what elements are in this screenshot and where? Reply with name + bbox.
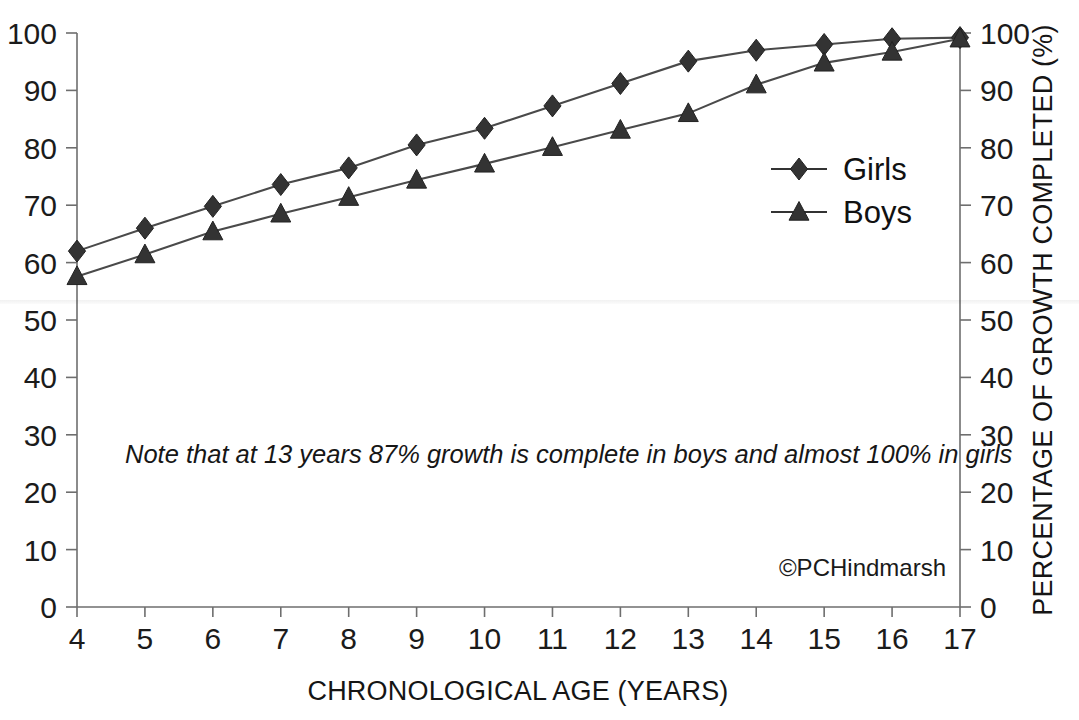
x-axis-tick-label: 14 (740, 622, 773, 655)
x-axis-tick-label: 6 (205, 622, 222, 655)
x-axis-tick-label: 16 (875, 622, 908, 655)
x-axis-tick-label: 15 (807, 622, 840, 655)
right-axis-tick-label: 60 (980, 247, 1013, 280)
right-axis-tick-label: 50 (980, 304, 1013, 337)
right-axis-tick-label: 100 (980, 17, 1030, 50)
x-axis-tick-label: 7 (272, 622, 289, 655)
right-axis-tick-label: 0 (980, 591, 997, 624)
x-axis-tick-label: 17 (943, 622, 976, 655)
x-axis-tick-label: 12 (604, 622, 637, 655)
right-axis-title: PERCENTAGE OF GROWTH COMPLETED (%) (1028, 24, 1058, 615)
left-axis-tick-label: 70 (24, 189, 57, 222)
right-axis-tick-label: 40 (980, 361, 1013, 394)
x-axis-tick-label: 9 (408, 622, 425, 655)
right-axis-tick-label: 20 (980, 476, 1013, 509)
x-axis-tick-label: 13 (672, 622, 705, 655)
left-axis-tick-label: 80 (24, 132, 57, 165)
left-axis-tick-label: 60 (24, 247, 57, 280)
left-axis-tick-label: 10 (24, 534, 57, 567)
growth-note-annotation: Note that at 13 years 87% growth is comp… (125, 440, 1013, 468)
x-axis-tick-label: 10 (468, 622, 501, 655)
copyright-annotation: ©PCHindmarsh (779, 554, 946, 581)
x-axis-tick-label: 4 (69, 622, 86, 655)
x-axis-title: CHRONOLOGICAL AGE (YEARS) (307, 676, 728, 706)
chart-page: 0102030405060708090100 01020304050607080… (0, 0, 1079, 720)
growth-percentage-line-chart: 0102030405060708090100 01020304050607080… (0, 0, 1079, 720)
left-axis-tick-label: 0 (40, 591, 57, 624)
left-axis-tick-label: 40 (24, 361, 57, 394)
left-axis-tick-label: 90 (24, 74, 57, 107)
x-axis-tick-label: 5 (137, 622, 154, 655)
right-axis-tick-label: 90 (980, 74, 1013, 107)
x-axis-tick-label: 8 (340, 622, 357, 655)
legend-label-boys: Boys (843, 195, 912, 230)
legend-label-girls: Girls (843, 152, 907, 187)
right-axis-tick-label: 10 (980, 534, 1013, 567)
right-axis-tick-label: 70 (980, 189, 1013, 222)
left-axis-tick-label: 50 (24, 304, 57, 337)
left-axis-tick-label: 100 (7, 17, 57, 50)
left-axis-tick-label: 20 (24, 476, 57, 509)
x-axis-tick-label: 11 (537, 622, 568, 655)
chart-background (0, 0, 1079, 720)
right-axis-tick-label: 80 (980, 132, 1013, 165)
left-axis-tick-label: 30 (24, 419, 57, 452)
